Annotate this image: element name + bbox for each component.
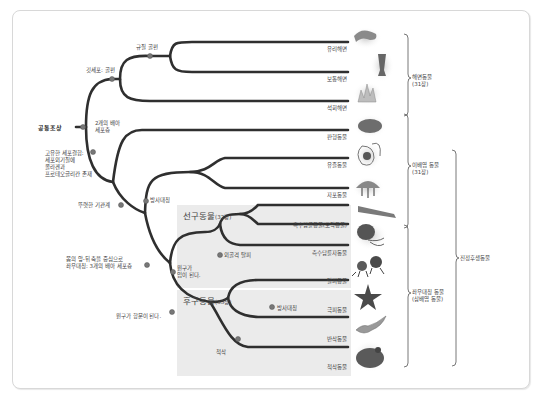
node-label-line: 좌우대칭: 3개의 배아 세포층 xyxy=(66,263,132,270)
bracket-label-porifera: 해면동물 (31장) xyxy=(412,74,432,88)
node-label-organ-system: 뚜렷한 기관계 xyxy=(78,202,110,209)
node-label-two-germ: 2개의 배아 세포층 xyxy=(95,120,120,134)
taxon-label: 보통해면 xyxy=(327,76,347,83)
node-label-blastopore-anus: 원구가 항문이 된다. xyxy=(116,313,161,320)
node-label-line: 원구가 xyxy=(177,265,201,272)
taxon-label: 촉수담륜동물(모악동물) xyxy=(293,222,347,229)
bracket-label-line: (31장) xyxy=(412,169,439,176)
bracket-label-line: (31장) xyxy=(412,81,432,88)
node-label-radial2: 방사대칭 xyxy=(277,305,297,312)
taxon-label: 자포동물 xyxy=(327,192,347,199)
taxon-label: 유즐동물 xyxy=(327,162,347,169)
group-name: 후구동물 xyxy=(183,296,215,306)
node-label-line: 몸의 앞-뒤 축을 중심으로 xyxy=(66,256,132,263)
node-label-radial: 방사대칭 xyxy=(150,197,170,204)
jellyfish-icon xyxy=(352,177,384,199)
taxon-label: 척삭동물 xyxy=(327,364,347,371)
taxon-label: 판형동물 xyxy=(327,134,347,141)
node-label-line: 2개의 배아 xyxy=(95,120,120,127)
bracket-label-bilateria: 좌우대칭 동물 (삼배엽 동물) xyxy=(412,289,444,303)
root-note: 고유한 세포결합: 세포외기질에 콜라겐과 프로테오글리칸 존재 xyxy=(45,150,92,178)
root-note-line: 세포외기질에 xyxy=(45,157,92,164)
node-label-bilateral: 몸의 앞-뒤 축을 중심으로 좌우대칭: 3개의 배아 세포층 xyxy=(66,256,132,270)
octopus-icon xyxy=(352,222,388,250)
node-label-line: 세포층 xyxy=(95,127,120,134)
node-label-line: 입이 된다. xyxy=(177,272,201,279)
glass-sponge-icon xyxy=(352,28,382,49)
group-name: 선구동물 xyxy=(183,211,215,221)
bracket-label-line: 좌우대칭 동물 xyxy=(412,289,444,296)
node-label-molting: 외골격 탈피 xyxy=(224,252,251,259)
root-label: 공통조상 xyxy=(38,124,62,131)
node-label-choanocyte: 깃세포: 골편 xyxy=(86,67,115,74)
group-chapter: (33장) xyxy=(215,299,231,305)
taxon-label: 탈피동물 xyxy=(327,278,347,285)
root-note-line: 콜라겐과 xyxy=(45,164,92,171)
frog-icon xyxy=(352,340,388,372)
bracket-label-line: 진정후생동물 xyxy=(460,255,490,262)
group-protostome: 선구동물(32장) xyxy=(183,209,231,221)
bracket-label-diploblast: 이배엽 동물 (31장) xyxy=(412,162,439,176)
calcareous-sponge-icon xyxy=(353,82,383,106)
taxon-label: 극피동물 xyxy=(327,307,347,314)
bracket-label-line: 해면동물 xyxy=(412,74,432,81)
group-deuterostome: 후구동물(33장) xyxy=(183,294,231,306)
bracket-label-eumetazoa: 진정후생동물 xyxy=(460,255,490,262)
arthropod-icon xyxy=(352,256,384,277)
taxon-label: 석회해면 xyxy=(327,105,347,112)
phylogenetic-tree-lines xyxy=(0,0,539,394)
animal-illustrations xyxy=(352,28,400,378)
node-label-spicule: 규질 골편 xyxy=(136,44,158,51)
acorn-worm-icon xyxy=(356,316,386,333)
taxon-label: 촉수담륜자동물 xyxy=(312,250,347,257)
ctenophore-icon xyxy=(354,142,382,170)
starfish-icon xyxy=(354,284,382,310)
node-label-notochord: 척삭 xyxy=(216,349,226,356)
lophotrochozoa-worm-icon xyxy=(358,206,396,218)
placozoa-icon xyxy=(353,114,387,138)
group-chapter: (32장) xyxy=(215,214,231,220)
taxon-label: 반삭동물 xyxy=(327,336,347,343)
root-note-line: 고유한 세포결합: xyxy=(45,150,92,157)
bracket-label-line: 이배엽 동물 xyxy=(412,162,439,169)
root-note-line: 프로테오글리칸 존재 xyxy=(45,171,92,178)
demosponge-icon xyxy=(370,50,394,82)
node-label-blastopore-mouth: 원구가 입이 된다. xyxy=(177,265,201,279)
bracket-label-line: (삼배엽 동물) xyxy=(412,296,444,303)
taxon-label: 유리해면 xyxy=(327,46,347,53)
